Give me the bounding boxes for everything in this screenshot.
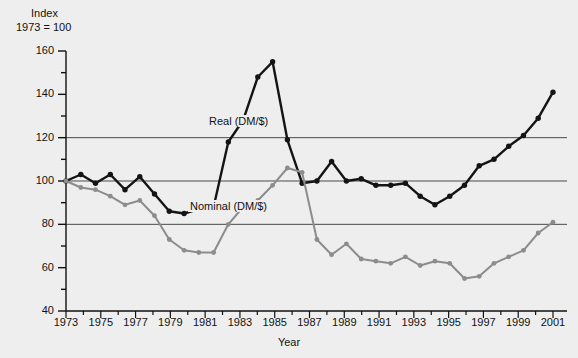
y-tick-label-120: 120 [28, 131, 54, 143]
data-point-nominal-31 [521, 248, 526, 253]
x-tick-label-1983: 1983 [223, 316, 257, 328]
data-point-real-28 [477, 163, 482, 168]
data-point-real-17 [314, 178, 319, 183]
data-point-real-22 [388, 183, 393, 188]
x-tick-label-1981: 1981 [188, 316, 222, 328]
data-point-nominal-1 [78, 185, 83, 190]
y-tick-label-80: 80 [28, 217, 54, 229]
data-point-nominal-4 [123, 202, 128, 207]
data-point-real-7 [167, 209, 172, 214]
series-line-nominal [66, 168, 553, 279]
plot-canvas [0, 0, 578, 358]
x-tick-label-1989: 1989 [327, 316, 361, 328]
data-point-real-3 [108, 172, 113, 177]
series-label-nominal: Nominal (DM/$) [188, 200, 269, 212]
data-point-real-21 [373, 183, 378, 188]
data-point-real-14 [270, 59, 275, 64]
x-tick-label-1977: 1977 [119, 316, 153, 328]
data-point-real-18 [329, 159, 334, 164]
data-point-real-15 [285, 137, 290, 142]
data-point-real-27 [462, 183, 467, 188]
y-tick-label-140: 140 [28, 87, 54, 99]
data-point-real-32 [536, 116, 541, 121]
x-axis-title: Year [0, 336, 578, 348]
data-point-nominal-19 [344, 241, 349, 246]
data-point-nominal-15 [285, 166, 290, 171]
data-point-nominal-11 [226, 222, 231, 227]
data-point-real-11 [226, 139, 231, 144]
x-tick-label-1975: 1975 [84, 316, 118, 328]
data-point-nominal-30 [506, 254, 511, 259]
x-tick-label-2001: 2001 [536, 316, 570, 328]
data-point-real-31 [521, 133, 526, 138]
data-point-real-2 [93, 181, 98, 186]
data-point-nominal-28 [477, 274, 482, 279]
data-point-nominal-8 [182, 248, 187, 253]
x-tick-label-1985: 1985 [258, 316, 292, 328]
data-point-real-25 [432, 202, 437, 207]
x-tick-label-1999: 1999 [501, 316, 535, 328]
data-point-nominal-14 [270, 183, 275, 188]
data-point-nominal-25 [433, 259, 438, 264]
data-point-nominal-16 [300, 170, 305, 175]
series-label-real: Real (DM/$) [207, 115, 270, 127]
data-point-nominal-3 [108, 194, 113, 199]
data-point-real-23 [403, 181, 408, 186]
data-point-nominal-20 [359, 257, 364, 262]
data-point-nominal-24 [418, 263, 423, 268]
data-point-nominal-21 [374, 259, 379, 264]
data-point-nominal-7 [167, 237, 172, 242]
x-tick-label-1993: 1993 [397, 316, 431, 328]
chart-figure: Index 1973 = 100 Real (DM/$) Nominal (DM… [0, 0, 578, 358]
data-point-nominal-9 [196, 250, 201, 255]
data-point-real-24 [418, 194, 423, 199]
data-point-nominal-27 [462, 276, 467, 281]
data-point-real-1 [78, 172, 83, 177]
y-tick-label-60: 60 [28, 261, 54, 273]
data-point-nominal-23 [403, 254, 408, 259]
data-point-nominal-26 [447, 261, 452, 266]
data-point-real-6 [152, 191, 157, 196]
data-point-real-19 [344, 178, 349, 183]
y-tick-label-40: 40 [28, 304, 54, 316]
data-point-nominal-22 [388, 261, 393, 266]
data-point-real-29 [491, 157, 496, 162]
x-tick-label-1979: 1979 [153, 316, 187, 328]
data-point-real-13 [255, 74, 260, 79]
data-point-nominal-0 [64, 179, 69, 184]
data-point-real-26 [447, 194, 452, 199]
data-point-real-5 [137, 174, 142, 179]
data-point-nominal-33 [551, 220, 556, 225]
data-point-real-20 [359, 176, 364, 181]
y-tick-label-160: 160 [28, 44, 54, 56]
data-point-nominal-6 [152, 213, 157, 218]
x-tick-label-1995: 1995 [432, 316, 466, 328]
x-tick-label-1987: 1987 [293, 316, 327, 328]
x-tick-label-1973: 1973 [49, 316, 83, 328]
x-tick-label-1991: 1991 [362, 316, 396, 328]
data-point-nominal-29 [492, 261, 497, 266]
data-point-nominal-17 [315, 237, 320, 242]
y-tick-label-100: 100 [28, 174, 54, 186]
data-point-nominal-32 [536, 231, 541, 236]
x-tick-label-1997: 1997 [466, 316, 500, 328]
data-point-nominal-10 [211, 250, 216, 255]
data-point-real-8 [181, 211, 186, 216]
data-point-real-4 [122, 187, 127, 192]
data-point-nominal-18 [329, 252, 334, 257]
data-point-real-33 [550, 90, 555, 95]
data-point-nominal-2 [93, 187, 98, 192]
data-point-nominal-5 [137, 198, 142, 203]
data-point-real-30 [506, 144, 511, 149]
